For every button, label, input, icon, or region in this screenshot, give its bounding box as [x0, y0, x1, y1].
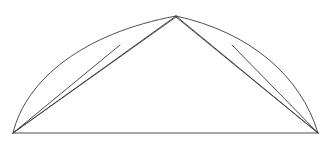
figure-root: — — —— — —— — ——— — — —— —— — [0, 0, 332, 145]
mid-chord-right-path [176, 17, 318, 133]
secant-left-path [13, 45, 120, 133]
arc-triangle-diagram [0, 0, 332, 145]
secant-right-path [232, 45, 318, 133]
mid-chord-left-path [13, 17, 176, 133]
figure-strokes [13, 16, 318, 133]
